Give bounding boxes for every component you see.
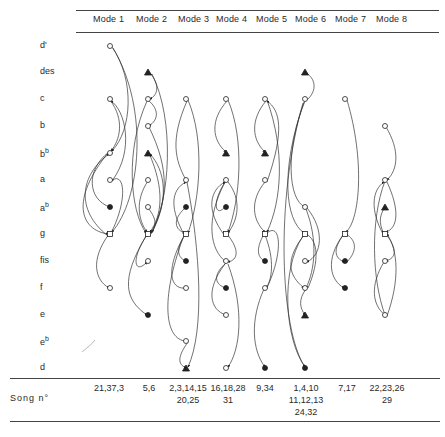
- node-circle-icon: [108, 44, 113, 49]
- mode-transition-diagram: [0, 0, 445, 437]
- songs-mode-8: 22,23,26 29: [362, 382, 412, 406]
- song-number-label: Song n°: [10, 393, 49, 403]
